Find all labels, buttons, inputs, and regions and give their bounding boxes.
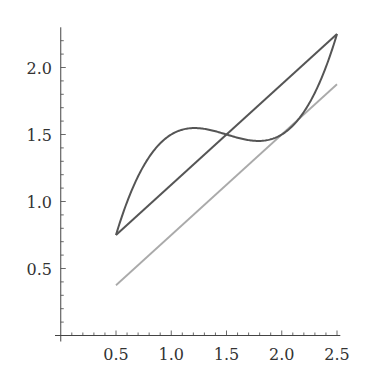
chart: 0.51.01.52.02.50.51.01.52.0: [0, 0, 372, 386]
x-tick-label: 1.0: [159, 345, 184, 364]
x-tick-label: 1.5: [214, 345, 239, 364]
ticks: [61, 41, 337, 336]
x-tick-label: 0.5: [103, 345, 128, 364]
x-tick-label: 2.5: [324, 345, 349, 364]
y-tick-label: 1.0: [27, 193, 52, 212]
tangent-line: [116, 84, 337, 285]
x-tick-label: 2.0: [269, 345, 294, 364]
y-tick-label: 1.5: [27, 126, 52, 145]
tick-labels: 0.51.01.52.02.50.51.01.52.0: [27, 59, 350, 365]
y-tick-label: 0.5: [27, 260, 52, 279]
axes: [55, 27, 340, 341]
y-tick-label: 2.0: [27, 59, 52, 78]
plot-area: [116, 34, 337, 285]
